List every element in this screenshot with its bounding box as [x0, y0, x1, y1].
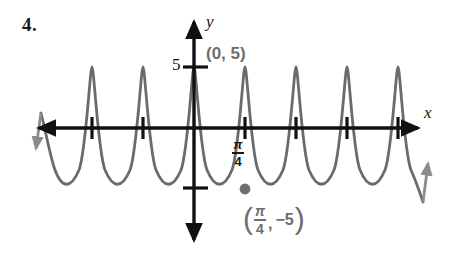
fraction-numerator: π	[254, 204, 266, 219]
curve-left-arrow-icon	[36, 113, 41, 148]
close-paren: )	[295, 206, 305, 232]
curve-right-arrow-icon	[423, 164, 428, 202]
y-tick-label-5: 5	[172, 55, 181, 75]
fraction-denominator: 4	[255, 221, 265, 236]
coordinate-plane-graph	[0, 0, 454, 253]
open-paren: (	[243, 206, 253, 232]
fraction-pi-over-4: π 4	[232, 138, 244, 168]
y-intercept-label: (0, 5)	[206, 44, 246, 64]
minimum-point-label: ( π 4 , −5 )	[243, 204, 305, 236]
cosine-curve	[36, 67, 428, 202]
fraction-pi-over-4: π 4	[254, 204, 266, 236]
x-tick-label-pi-over-4: π 4	[232, 138, 244, 168]
y-axis-label: y	[206, 12, 214, 32]
x-axis-label: x	[424, 103, 432, 123]
fraction-denominator: 4	[233, 154, 242, 168]
minimum-point-dot	[240, 184, 251, 195]
fraction-numerator: π	[232, 138, 243, 152]
comma-separator: ,	[267, 215, 274, 233]
y-value: −5	[275, 211, 293, 229]
